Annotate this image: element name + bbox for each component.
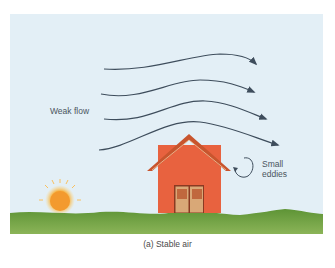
stable-air-diagram	[0, 0, 335, 268]
small-eddies-line1: Small	[262, 159, 287, 169]
house-door	[174, 185, 204, 213]
figure-caption: (a) Stable air	[0, 239, 335, 249]
small-eddies-label: Small eddies	[262, 159, 287, 179]
small-eddies-line2: eddies	[262, 169, 287, 179]
weak-flow-label: Weak flow	[50, 106, 89, 116]
house	[147, 134, 231, 213]
